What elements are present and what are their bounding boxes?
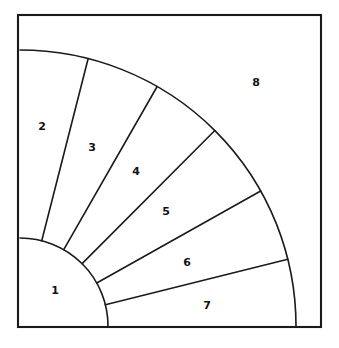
region-7-label: 7 <box>203 300 211 311</box>
region-6-label: 6 <box>183 257 191 268</box>
diagram-shapes <box>18 15 321 327</box>
region-2-label: 2 <box>38 121 46 132</box>
region-1-label: 1 <box>51 285 59 296</box>
region-3-label: 3 <box>88 142 96 153</box>
outer-frame <box>18 15 321 327</box>
region-5-label: 5 <box>162 206 170 217</box>
region-4-label: 4 <box>132 166 140 177</box>
figure-container: 12345678 <box>0 0 339 348</box>
region-8-label: 8 <box>252 77 260 88</box>
